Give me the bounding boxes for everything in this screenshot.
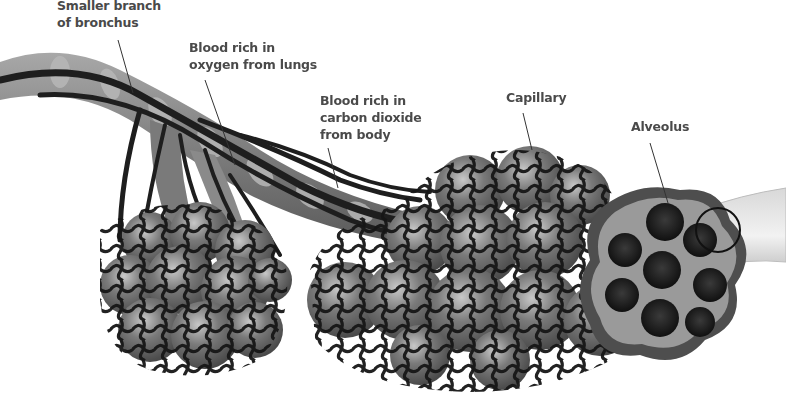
alveoli-illustration	[0, 0, 786, 393]
label-line: Blood rich in	[320, 92, 422, 109]
label-line: Blood rich in	[189, 39, 317, 56]
leader-capillary	[523, 113, 532, 150]
label-blood-rich-in-carbon-dioxide: Blood rich in carbon dioxide from body	[320, 92, 422, 143]
label-line: Smaller branch	[57, 0, 161, 14]
left-alveolar-cluster	[100, 202, 292, 376]
label-line: Alveolus	[631, 118, 689, 135]
label-alveolus: Alveolus	[631, 118, 689, 135]
label-line: of bronchus	[57, 14, 161, 31]
alveoli-diagram: Smaller branch of bronchus Blood rich in…	[0, 0, 786, 393]
label-blood-rich-in-oxygen: Blood rich in oxygen from lungs	[189, 39, 317, 73]
label-line: Capillary	[506, 89, 566, 106]
alveolus-cross-section	[580, 187, 746, 360]
label-line: carbon dioxide	[320, 109, 422, 126]
label-line: oxygen from lungs	[189, 56, 317, 73]
label-line: from body	[320, 126, 422, 143]
label-capillary: Capillary	[506, 89, 566, 106]
label-smaller-branch-of-bronchus: Smaller branch of bronchus	[57, 0, 161, 31]
